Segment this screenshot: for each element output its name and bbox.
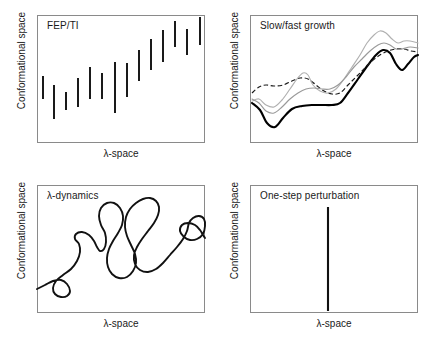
- panel-title-one-step-perturbation: One-step perturbation: [260, 190, 359, 201]
- y-axis-label-fep-ti: Conformational space: [16, 0, 27, 125]
- plot-canvas-slow-fast-growth: [250, 15, 418, 143]
- panel-title-slow-fast-growth: Slow/fast growth: [260, 20, 335, 31]
- y-axis-label-one-step-perturbation: Conformational space: [229, 167, 240, 295]
- panel-fep-ti: FEP/TI Conformational space λ-space: [0, 0, 212, 170]
- panel-title-lambda-dynamics: λ-dynamics: [47, 190, 99, 201]
- x-axis-label-fep-ti: λ-space: [37, 148, 205, 159]
- panel-slow-fast-growth: Slow/fast growth Conformational space λ-…: [213, 0, 425, 170]
- trajectory-gray-slow: [252, 43, 418, 113]
- x-axis-label-slow-fast-growth: λ-space: [250, 148, 418, 159]
- plot-canvas-fep-ti: [37, 15, 205, 143]
- figure-free-energy-methods: FEP/TI Conformational space λ-space Slow…: [0, 0, 425, 341]
- plot-canvas-lambda-dynamics: [37, 185, 205, 313]
- panel-lambda-dynamics: λ-dynamics Conformational space λ-space: [0, 170, 212, 340]
- x-axis-label-one-step-perturbation: λ-space: [250, 318, 418, 329]
- panel-title-fep-ti: FEP/TI: [47, 20, 79, 31]
- trajectory-gray-fast: [252, 31, 418, 107]
- trajectory-thick-solid: [252, 50, 418, 127]
- panel-one-step-perturbation: One-step perturbation Conformational spa…: [213, 170, 425, 340]
- x-axis-label-lambda-dynamics: λ-space: [37, 318, 205, 329]
- trajectory-random-walk: [37, 198, 205, 297]
- y-axis-label-slow-fast-growth: Conformational space: [229, 0, 240, 125]
- y-axis-label-lambda-dynamics: Conformational space: [16, 167, 27, 295]
- plot-canvas-one-step-perturbation: [250, 185, 418, 313]
